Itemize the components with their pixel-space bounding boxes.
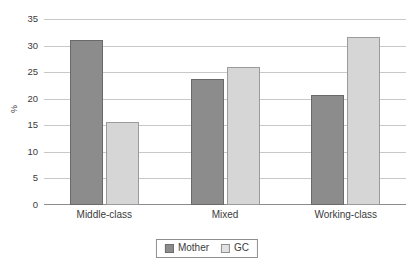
legend: Mother GC bbox=[156, 239, 258, 258]
y-tick-label: 25 bbox=[4, 67, 38, 77]
legend-label-mother: Mother bbox=[178, 242, 209, 254]
legend-swatch-icon-gc bbox=[221, 244, 230, 253]
x-tick-label-working-class: Working-class bbox=[285, 208, 406, 224]
legend-label-gc: GC bbox=[234, 242, 249, 254]
y-tick-label: 35 bbox=[4, 14, 38, 24]
bar-pair bbox=[311, 19, 380, 205]
bar-pair bbox=[70, 19, 139, 205]
plot-area bbox=[44, 19, 406, 205]
bar-pair bbox=[191, 19, 260, 205]
bar-mother-middle-class[interactable] bbox=[70, 40, 103, 205]
x-tick-label-middle-class: Middle-class bbox=[44, 208, 165, 224]
bar-chart: % 35 30 25 20 15 10 5 0 bbox=[0, 0, 414, 266]
bar-group-middle-class bbox=[44, 19, 165, 205]
y-tick-label: 30 bbox=[4, 41, 38, 51]
bar-mother-working-class[interactable] bbox=[311, 95, 344, 205]
y-tick-label: 20 bbox=[4, 94, 38, 104]
x-tick-label-mixed: Mixed bbox=[165, 208, 286, 224]
bar-groups bbox=[44, 19, 406, 205]
y-tick-label: 15 bbox=[4, 120, 38, 130]
legend-swatch-icon-mother bbox=[165, 244, 174, 253]
y-axis-tick-labels: 35 30 25 20 15 10 5 0 bbox=[0, 19, 38, 205]
bar-gc-working-class[interactable] bbox=[347, 37, 380, 205]
legend-item-mother[interactable]: Mother bbox=[165, 242, 209, 254]
y-tick-label: 0 bbox=[4, 200, 38, 210]
bar-gc-mixed[interactable] bbox=[227, 67, 260, 205]
y-tick-label: 10 bbox=[4, 147, 38, 157]
bar-group-mixed bbox=[165, 19, 286, 205]
bar-group-working-class bbox=[285, 19, 406, 205]
bar-mother-mixed[interactable] bbox=[191, 79, 224, 205]
legend-item-gc[interactable]: GC bbox=[221, 242, 249, 254]
x-axis-tick-labels: Middle-class Mixed Working-class bbox=[44, 208, 406, 224]
y-tick-label: 5 bbox=[4, 173, 38, 183]
bar-gc-middle-class[interactable] bbox=[106, 122, 139, 205]
